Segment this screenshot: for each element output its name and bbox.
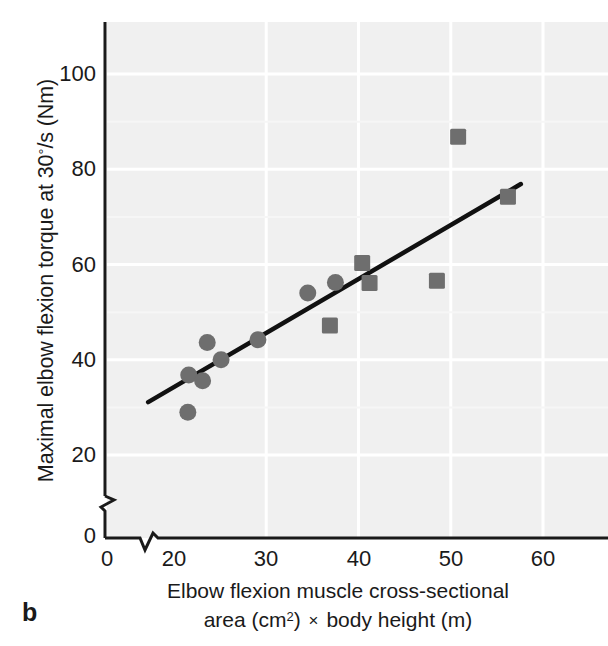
data-point-square	[450, 129, 466, 145]
data-point-circle	[213, 351, 230, 368]
data-point-square	[354, 255, 370, 271]
data-point-square	[322, 317, 338, 333]
data-point-square	[500, 189, 516, 205]
data-point-circle	[179, 404, 196, 421]
data-point-circle	[327, 274, 344, 291]
data-point-square	[429, 273, 445, 289]
data-point-square	[362, 275, 378, 291]
data-point-circle	[199, 334, 216, 351]
scatter-plot-figure: Maximal elbow flexion torque at 30°/s (N…	[0, 0, 608, 646]
data-point-circle	[249, 331, 266, 348]
data-point-circle	[299, 285, 316, 302]
data-point-circle	[194, 372, 211, 389]
plot-canvas	[0, 0, 608, 646]
